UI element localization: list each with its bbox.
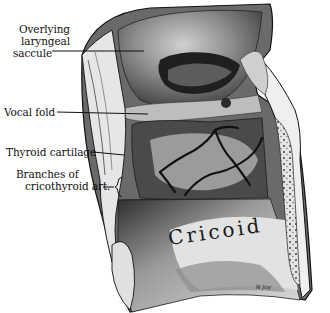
label-saccule: Overlying laryngeal saccule bbox=[2, 23, 70, 59]
label-vocal-fold: Vocal fold bbox=[4, 106, 55, 118]
label-thyroid-cartilage: Thyroid cartilage bbox=[6, 146, 96, 158]
label-line: saccule bbox=[2, 47, 52, 59]
larynx-section bbox=[82, 4, 312, 312]
label-line: cricothyroid art. bbox=[25, 180, 110, 192]
label-line: laryngeal bbox=[2, 35, 70, 47]
label-cricothyroid-branches: Branches of cricothyroid art. bbox=[16, 168, 110, 192]
label-line: Vocal fold bbox=[4, 106, 55, 118]
label-line: Thyroid cartilage bbox=[6, 146, 96, 158]
label-line: Branches of bbox=[16, 168, 110, 180]
label-line: Overlying bbox=[2, 23, 70, 35]
artist-signature: N Joy bbox=[256, 283, 271, 290]
